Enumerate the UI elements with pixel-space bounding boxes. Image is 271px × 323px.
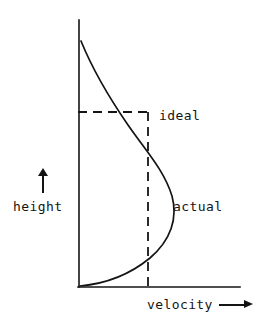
velocity-profile-figure: height ideal actual velocity	[0, 0, 271, 323]
y-axis-label: height	[13, 200, 62, 213]
velocity-right-arrow-icon	[219, 300, 253, 309]
x-axis-label-group: velocity	[147, 298, 253, 311]
height-up-arrow-icon	[37, 168, 48, 193]
figure-canvas	[0, 0, 271, 323]
x-axis-label: velocity	[147, 298, 213, 311]
ideal-curve-label: ideal	[159, 109, 200, 122]
actual-velocity-profile-curve	[80, 41, 174, 286]
actual-curve-label: actual	[173, 200, 222, 213]
